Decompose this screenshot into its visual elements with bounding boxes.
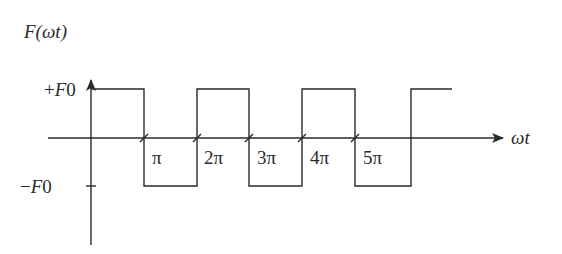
x-axis-label: ωt	[511, 127, 530, 148]
neg-level-label: −F0	[20, 176, 52, 197]
pos-level-label: +F0	[44, 79, 76, 100]
tick-label-3pi: 3π	[257, 147, 277, 168]
tick-label-5pi: 5π	[363, 147, 383, 168]
square-wave-diagram: F(ωt) +F0 −F0 ωt π 2π 3π 4π 5π	[0, 0, 562, 254]
tick-label-2pi: 2π	[204, 147, 224, 168]
y-axis-label: F(ωt)	[23, 21, 67, 43]
tick-label-pi: π	[152, 147, 162, 168]
tick-label-4pi: 4π	[310, 147, 330, 168]
